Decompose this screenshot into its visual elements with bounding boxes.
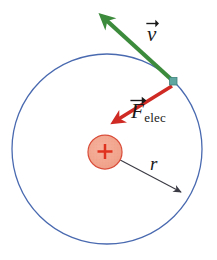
nucleus bbox=[88, 135, 122, 169]
diagram-canvas bbox=[0, 0, 217, 260]
velocity-vector-label: v bbox=[147, 24, 156, 45]
force-electric-label: F elec bbox=[131, 101, 166, 124]
force-symbol-wrap: F bbox=[131, 101, 144, 122]
physics-diagram: v F elec r bbox=[0, 0, 217, 260]
velocity-symbol-wrap: v bbox=[147, 24, 156, 45]
force-symbol: F bbox=[131, 101, 144, 122]
velocity-vector-arrow bbox=[105, 19, 173, 81]
velocity-symbol: v bbox=[147, 24, 156, 45]
force-subscript: elec bbox=[144, 110, 166, 125]
electron-marker bbox=[170, 78, 178, 86]
radius-label: r bbox=[150, 154, 157, 173]
